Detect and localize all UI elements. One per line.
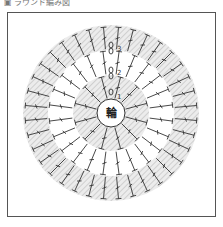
round-label-2: 2 — [117, 69, 121, 77]
center-label: 輪 — [106, 106, 118, 120]
round-label-1: 1 — [117, 93, 121, 101]
crochet-chart: 輪 1 2 3 — [0, 0, 223, 227]
round-label-3: 3 — [117, 45, 121, 53]
